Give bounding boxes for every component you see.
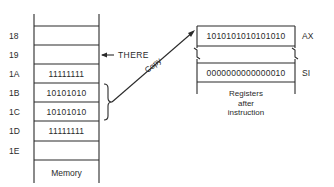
break-mark-right	[292, 48, 298, 59]
register-si-name: SI	[302, 68, 310, 78]
register-ax-name: AX	[302, 31, 313, 41]
memory-address-18: 18	[9, 31, 29, 41]
memory-cell-1d: 11111111	[34, 126, 99, 136]
registers-caption-line-3: instruction	[216, 108, 276, 118]
register-ax-value: 1010101010101010	[197, 31, 295, 41]
memory-cell-1a: 11111111	[34, 69, 99, 79]
memory-address-1b: 1B	[9, 88, 29, 98]
memory-address-19: 19	[9, 50, 29, 60]
memory-address-1c: 1C	[9, 107, 29, 117]
there-arrowhead-icon	[101, 53, 107, 58]
memory-address-1d: 1D	[9, 126, 29, 136]
register-si-value: 0000000000000010	[197, 68, 295, 78]
there-label: THERE	[118, 50, 149, 60]
brace	[104, 84, 112, 120]
registers-caption-line-1: Registers	[216, 89, 276, 99]
memory-address-1e: 1E	[9, 146, 29, 156]
break-mark-left	[194, 48, 200, 59]
memory-cell-1c: 10101010	[34, 107, 99, 117]
memory-address-1a: 1A	[9, 69, 29, 79]
memory-caption: Memory	[34, 169, 99, 179]
memory-cell-1b: 10101010	[34, 88, 99, 98]
registers-caption-line-2: after	[216, 99, 276, 109]
